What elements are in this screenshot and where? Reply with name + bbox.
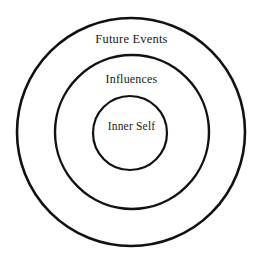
concentric-circles-diagram: Future Events Influences Inner Self — [0, 0, 263, 267]
ring-label-influences: Influences — [0, 73, 263, 85]
ring-label-future-events: Future Events — [0, 33, 263, 46]
ring-label-inner-self: Inner Self — [0, 121, 263, 133]
